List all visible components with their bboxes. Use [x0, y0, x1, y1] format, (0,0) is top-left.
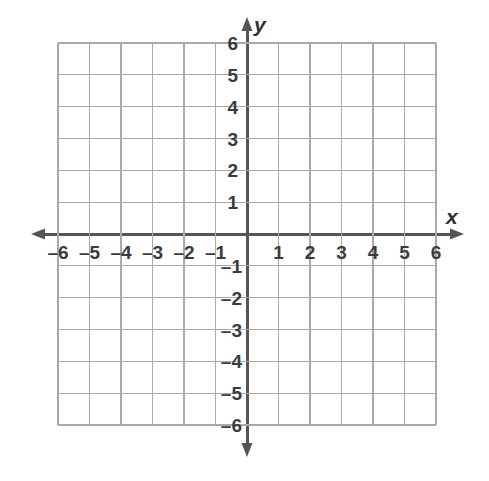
y-tick-label-1: 1	[227, 192, 238, 213]
x-axis-tick-labels: –6 –5 –4 –3 –2 –1 1 2 3 4 5 6	[47, 242, 441, 263]
y-tick-label--5: –5	[221, 383, 243, 404]
y-tick-label-5: 5	[227, 65, 238, 86]
x-axis-arrow-right	[450, 229, 464, 240]
coordinate-plane-canvas: –6 –5 –4 –3 –2 –1 1 2 3 4 5 6 6 5 4 3 2 …	[0, 0, 489, 481]
y-tick-label-2: 2	[227, 160, 238, 181]
x-tick-label--5: –5	[79, 242, 101, 263]
x-tick-label-2: 2	[305, 242, 316, 263]
y-tick-label--4: –4	[221, 351, 243, 372]
x-axis-label: x	[445, 205, 459, 228]
x-tick-label--3: –3	[142, 242, 163, 263]
y-axis-arrow-up	[242, 17, 253, 31]
x-tick-label-6: 6	[431, 242, 442, 263]
y-tick-label-4: 4	[227, 97, 238, 118]
x-tick-label--2: –2	[173, 242, 194, 263]
y-tick-label--6: –6	[221, 415, 242, 436]
y-axis	[242, 17, 253, 457]
y-tick-label--3: –3	[221, 320, 242, 341]
x-tick-label-1: 1	[273, 242, 284, 263]
x-tick-label-4: 4	[368, 242, 379, 263]
y-tick-label--2: –2	[221, 288, 242, 309]
coordinate-plane-figure: –6 –5 –4 –3 –2 –1 1 2 3 4 5 6 6 5 4 3 2 …	[0, 0, 489, 481]
x-tick-label-5: 5	[399, 242, 410, 263]
y-tick-label-3: 3	[227, 129, 238, 150]
x-tick-label-3: 3	[336, 242, 347, 263]
x-tick-label--4: –4	[110, 242, 132, 263]
y-tick-label--1: –1	[221, 256, 243, 277]
x-tick-label--6: –6	[47, 242, 68, 263]
y-axis-arrow-down	[242, 443, 253, 457]
y-axis-label: y	[253, 13, 267, 36]
x-axis-arrow-left	[31, 229, 45, 240]
y-tick-label-6: 6	[227, 33, 238, 54]
